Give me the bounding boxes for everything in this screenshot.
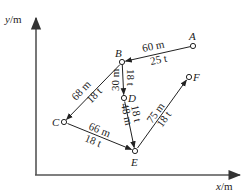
node-d bbox=[121, 95, 126, 100]
y-axis-label: y/m bbox=[4, 13, 22, 25]
transport-network-diagram: y/m x/m A B C D E F 60 m 25 t 68 m 18 t bbox=[0, 0, 250, 196]
edge-b-d-distance: 30 m bbox=[109, 68, 121, 91]
edge-a-b-load: 25 t bbox=[149, 52, 168, 67]
node-label-b: B bbox=[115, 47, 122, 59]
node-a bbox=[190, 43, 195, 48]
edge-b-d bbox=[122, 65, 123, 95]
edge-b-d-load: 18 t bbox=[125, 69, 137, 86]
node-label-f: F bbox=[192, 71, 200, 83]
axes: y/m x/m bbox=[4, 13, 240, 192]
node-c bbox=[61, 119, 66, 124]
node-b bbox=[119, 59, 124, 64]
x-axis-label: x/m bbox=[215, 180, 233, 192]
node-label-e: E bbox=[130, 156, 138, 168]
node-label-a: A bbox=[188, 30, 196, 42]
node-f bbox=[186, 74, 191, 79]
node-label-c: C bbox=[52, 116, 60, 128]
node-e bbox=[132, 148, 137, 153]
